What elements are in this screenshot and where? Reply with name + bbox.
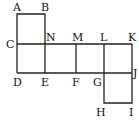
label-f: F	[72, 76, 80, 89]
square-abnc	[17, 14, 45, 44]
label-b: B	[41, 1, 49, 14]
label-h: H	[96, 106, 106, 119]
label-g: G	[93, 76, 102, 89]
label-j: J	[132, 67, 137, 80]
square-gjih	[104, 73, 132, 103]
label-m: M	[72, 31, 83, 44]
label-l: L	[100, 31, 108, 44]
label-e: E	[41, 76, 49, 89]
label-k: K	[128, 31, 137, 44]
label-n: N	[46, 31, 56, 44]
cube-net-diagram: A B C N M L K D E F G J H I	[0, 0, 139, 120]
label-c: C	[6, 38, 14, 51]
label-i: I	[129, 106, 133, 119]
label-d: D	[13, 76, 22, 89]
label-a: A	[12, 1, 22, 14]
